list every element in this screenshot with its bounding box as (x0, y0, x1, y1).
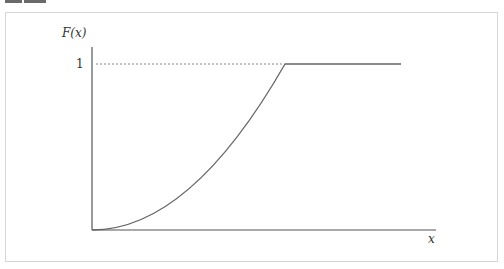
y-tick-label-one: 1 (76, 57, 84, 71)
y-axis-label: F(x) (62, 26, 86, 40)
x-axis-label: x (428, 232, 435, 246)
cdf-chart (0, 0, 504, 269)
cdf-curve (92, 64, 285, 230)
